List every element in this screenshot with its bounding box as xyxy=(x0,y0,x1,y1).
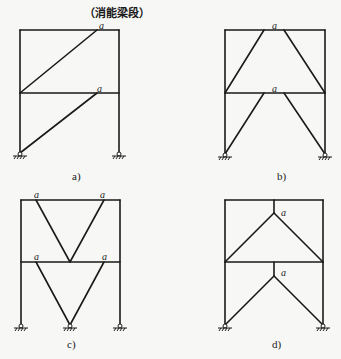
support-b-left xyxy=(218,153,232,160)
frame-c xyxy=(14,200,127,331)
caption-d: d) xyxy=(272,339,281,350)
link-label-c-mid-left: a xyxy=(34,252,39,262)
support-d-right xyxy=(316,324,330,331)
frame-b xyxy=(218,30,332,160)
title-link-segment: （消能梁段） xyxy=(84,8,150,19)
frames-drawing xyxy=(0,0,341,359)
caption-a: a) xyxy=(72,171,81,182)
support-a-left xyxy=(13,152,27,159)
link-label-a-top: a xyxy=(99,21,104,31)
link-label-a-mid: a xyxy=(97,84,102,94)
support-b-right xyxy=(318,153,332,160)
link-label-c-top-right: a xyxy=(100,190,105,200)
support-d-left xyxy=(218,324,232,331)
support-c-right xyxy=(113,324,127,331)
support-a-right xyxy=(112,152,126,159)
frame-d xyxy=(218,200,330,331)
link-label-b-top: a xyxy=(272,21,277,31)
eccentric-brace-diagram: （消能梁段） a a a a a a a a a a a) b) c) d) xyxy=(0,0,341,359)
link-label-c-mid-right: a xyxy=(102,252,107,262)
link-label-d-top: a xyxy=(281,208,286,218)
support-c-left xyxy=(14,324,28,331)
frame-a xyxy=(13,30,126,159)
support-c-middle xyxy=(63,324,77,331)
caption-b: b) xyxy=(277,171,286,182)
link-label-c-top-left: a xyxy=(34,190,39,200)
caption-c: c) xyxy=(67,339,76,350)
link-label-d-mid: a xyxy=(281,268,286,278)
link-label-b-mid: a xyxy=(272,84,277,94)
